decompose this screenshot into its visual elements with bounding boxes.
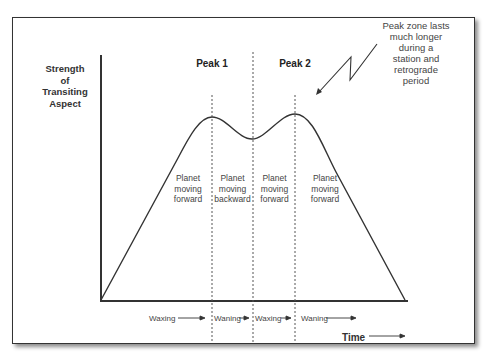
- phase-line: forward: [168, 194, 208, 205]
- phase-line: Planet: [254, 173, 295, 184]
- phase-line: backward: [212, 194, 253, 205]
- note-line: period: [375, 75, 457, 86]
- y-axis-label: Strength of Transiting Aspect: [40, 63, 90, 109]
- phase-line: Planet: [212, 173, 253, 184]
- note-line: much longer: [375, 31, 457, 42]
- phase-line: moving: [168, 184, 208, 195]
- waning-label-1: Waning: [214, 314, 241, 323]
- waning-label-2: Waning: [301, 314, 328, 323]
- y-label-line: Strength: [40, 63, 90, 75]
- time-axis-label: Time: [342, 332, 365, 343]
- waxing-label-1: Waxing: [149, 314, 175, 323]
- phase-line: forward: [305, 194, 345, 205]
- peak-1-label: Peak 1: [188, 58, 236, 69]
- phase-line: Planet: [168, 173, 208, 184]
- phase-label-3: Planet moving forward: [254, 173, 295, 205]
- phase-label-1: Planet moving forward: [168, 173, 208, 205]
- note-line: during a: [375, 42, 457, 53]
- y-label-line: Aspect: [40, 98, 90, 110]
- waxing-label-2: Waxing: [255, 314, 281, 323]
- phase-line: moving: [305, 184, 345, 195]
- note-line: station and: [375, 53, 457, 64]
- annotation-note: Peak zone lasts much longer during a sta…: [375, 20, 457, 86]
- phase-line: moving: [254, 184, 295, 195]
- peak-2-label: Peak 2: [271, 58, 319, 69]
- phase-line: Planet: [305, 173, 345, 184]
- zigzag-arrow-icon: [319, 44, 377, 92]
- note-line: retrograde: [375, 64, 457, 75]
- y-label-line: Transiting: [40, 86, 90, 98]
- note-line: Peak zone lasts: [375, 20, 457, 31]
- phase-label-2: Planet moving backward: [212, 173, 253, 205]
- phase-line: moving: [212, 184, 253, 195]
- y-label-line: of: [40, 75, 90, 87]
- phase-line: forward: [254, 194, 295, 205]
- phase-label-4: Planet moving forward: [305, 173, 345, 205]
